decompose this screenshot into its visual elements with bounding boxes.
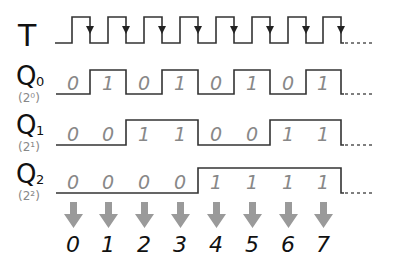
count-values: 0 1 2 3 4 5 6 7 [66, 232, 330, 257]
count-value: 0 [66, 232, 80, 257]
q1-bit: 1 [174, 123, 186, 145]
svg-text:Q: Q [16, 159, 36, 189]
count-value: 2 [137, 232, 151, 257]
q0-bit: 0 [282, 72, 294, 94]
q2-bit: 1 [282, 171, 294, 193]
q1-waveform: 0 0 1 1 0 0 1 1 [56, 120, 375, 145]
svg-text:2: 2 [36, 172, 44, 187]
q1-bit: 1 [138, 123, 150, 145]
q1-bit: 1 [282, 123, 294, 145]
svg-text:(2²): (2²) [18, 189, 40, 203]
q2-bit: 0 [102, 171, 114, 193]
signal-label-q1: Q 1 (2¹) [16, 110, 44, 154]
signal-label-t: T [17, 18, 37, 53]
q0-bit: 0 [210, 72, 222, 94]
q1-bit: 0 [102, 123, 114, 145]
q2-bit: 1 [317, 171, 329, 193]
q2-bit: 1 [210, 171, 222, 193]
count-value: 6 [281, 232, 295, 257]
count-value: 1 [101, 232, 115, 257]
q1-bit: 0 [210, 123, 222, 145]
q2-bit: 0 [174, 171, 186, 193]
q2-bit: 0 [67, 171, 79, 193]
q0-bit: 0 [67, 72, 79, 94]
svg-text:Q: Q [16, 61, 36, 91]
q2-bit: 1 [246, 171, 258, 193]
q2-bit: 0 [138, 171, 150, 193]
count-value: 7 [316, 232, 330, 257]
svg-text:1: 1 [36, 123, 44, 138]
q2-waveform: 0 0 0 0 1 1 1 1 [56, 168, 375, 193]
signal-label-q2: Q 2 (2²) [16, 159, 44, 203]
q0-waveform: 0 1 0 1 0 1 0 1 [56, 70, 375, 94]
q1-bit: 0 [246, 123, 258, 145]
q0-bit: 1 [174, 72, 186, 94]
count-value: 4 [209, 232, 223, 257]
svg-text:Q: Q [16, 110, 36, 140]
svg-text:(2⁰): (2⁰) [18, 91, 40, 105]
count-value: 3 [173, 232, 187, 257]
q1-bit: 1 [317, 123, 329, 145]
count-value: 5 [245, 232, 259, 257]
q0-bit: 0 [138, 72, 150, 94]
clock-waveform [55, 17, 375, 43]
timing-diagram: T Q 0 (2⁰) Q 1 (2¹) Q 2 (2²) 0 1 [0, 0, 394, 268]
down-arrow-icons [64, 202, 333, 228]
svg-text:0: 0 [36, 74, 44, 89]
q0-bit: 1 [246, 72, 258, 94]
svg-text:(2¹): (2¹) [18, 140, 40, 154]
q0-bit: 1 [317, 72, 329, 94]
q0-bit: 1 [102, 72, 114, 94]
signal-label-q0: Q 0 (2⁰) [16, 61, 44, 105]
q1-bit: 0 [67, 123, 79, 145]
